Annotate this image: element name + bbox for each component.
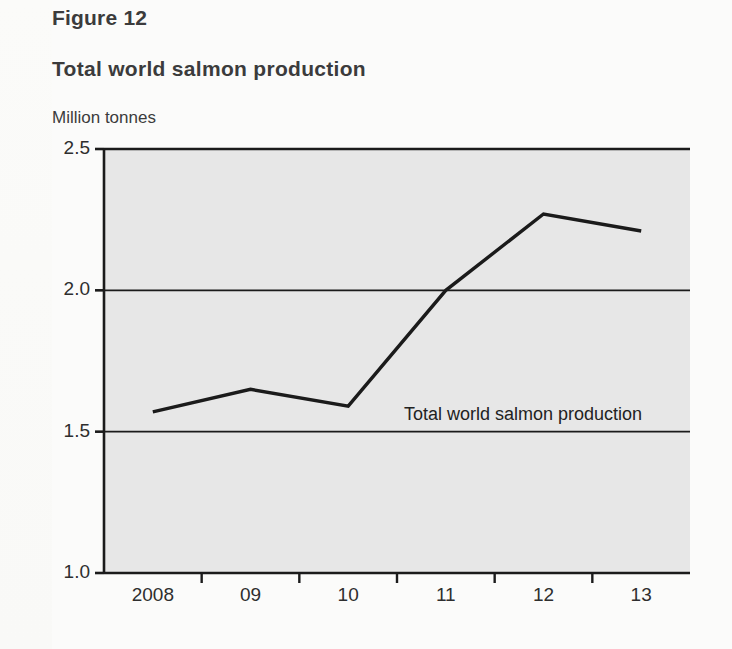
line-chart: 1.01.52.02.5 20080910111213 Total world … bbox=[0, 0, 732, 649]
y-tick-label: 1.0 bbox=[34, 561, 90, 583]
y-tick-marks-group bbox=[95, 149, 104, 573]
x-tick-label: 09 bbox=[206, 584, 296, 606]
x-tick-label: 10 bbox=[303, 584, 393, 606]
y-tick-label: 2.5 bbox=[34, 137, 90, 159]
x-tick-label: 2008 bbox=[108, 584, 198, 606]
y-tick-label: 2.0 bbox=[34, 278, 90, 300]
series-line-total-world-salmon-production bbox=[153, 214, 641, 412]
gridlines-group bbox=[104, 149, 690, 573]
x-tick-label: 11 bbox=[401, 584, 491, 606]
chart-svg bbox=[0, 0, 732, 649]
series-annotation-label: Total world salmon production bbox=[404, 404, 642, 425]
x-tick-label: 13 bbox=[596, 584, 686, 606]
x-tick-marks-group bbox=[202, 573, 593, 583]
y-tick-label: 1.5 bbox=[34, 420, 90, 442]
x-tick-label: 12 bbox=[499, 584, 589, 606]
